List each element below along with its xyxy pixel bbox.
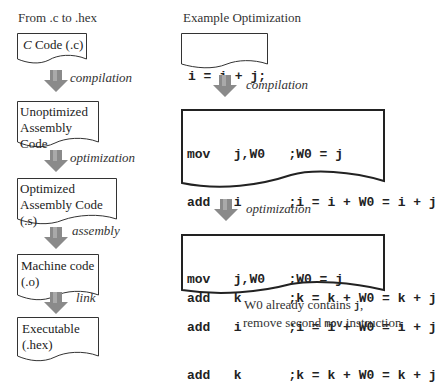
arrow-label-link: link (76, 290, 96, 306)
doc-line: Unoptimized (20, 104, 99, 120)
down-arrow-icon (44, 150, 68, 176)
note-line-2: remove second mov instruction (243, 315, 401, 333)
down-arrow-icon (214, 199, 238, 225)
doc-c-code-label: Code (.c) (32, 37, 84, 52)
c-letter: C (23, 37, 32, 52)
arrow-label-optimization: optimization (70, 150, 135, 166)
optimization-note: W0 already contains j, remove second mov… (244, 297, 401, 333)
left-heading: From .c to .hex (18, 10, 97, 26)
doc-line: Machine code (21, 258, 94, 274)
arrow-label-compilation: compilation (70, 70, 132, 86)
arrow-label-optimization-right: optimization (246, 201, 311, 217)
doc-line: (.hex) (22, 337, 80, 353)
down-arrow-icon (213, 75, 237, 101)
down-arrow-icon (44, 227, 68, 253)
doc-optimized-assembly: Optimized Assembly Code (.s) (17, 178, 117, 226)
asm-line: add k ;k = k + W0 = k + j (187, 368, 437, 384)
doc-line: (.o) (21, 274, 94, 290)
doc-line: Optimized (20, 181, 117, 197)
doc-optimized-asm: mov j,W0 ;W0 = j add i ;i = i + W0 = i +… (181, 234, 385, 296)
down-arrow-icon (44, 70, 68, 96)
doc-c-code: C Code (.c) (17, 33, 87, 65)
doc-unoptimized-assembly: Unoptimized Assembly Code (17, 101, 99, 149)
doc-line: Assembly Code (20, 120, 99, 152)
doc-executable: Executable (.hex) (17, 317, 99, 365)
right-heading: Example Optimization (183, 10, 301, 26)
arrow-label-assembly: assembly (72, 223, 120, 239)
asm-line: mov j,W0 ;W0 = j (187, 272, 437, 288)
arrow-label-compilation-right: compilation (246, 77, 308, 93)
doc-source-code: i = i + j; k = k + j; (181, 33, 268, 69)
down-arrow-icon (44, 292, 68, 318)
doc-unoptimized-asm: mov j,W0 ;W0 = j add i ;i = i + W0 = i +… (181, 109, 385, 191)
note-line-1: W0 already contains j, (244, 297, 401, 315)
asm-line: mov j,W0 ;W0 = j (187, 147, 437, 163)
doc-line: Executable (22, 321, 80, 337)
